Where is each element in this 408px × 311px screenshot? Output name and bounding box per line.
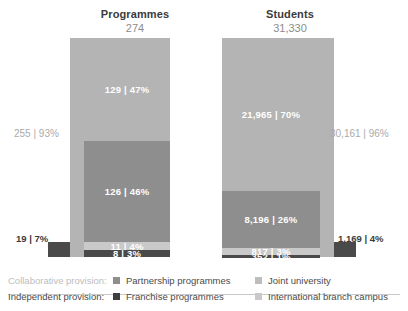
independent-total-bar-students [334, 242, 356, 257]
legend-label-partnership: Partnership programmes [126, 275, 231, 286]
segment-label-franchise-students: 352 | 1% [251, 255, 290, 259]
legend-swatch-joint-university-icon [255, 277, 262, 284]
segment-partnership-students[interactable]: 8,196 | 26% [222, 191, 320, 248]
legend-swatch-franchise-icon [113, 293, 120, 300]
column-title-students-label: Students [210, 8, 370, 21]
collaborative-total-bar-students [320, 38, 334, 257]
independent-total-label-students: 1,169 | 4% [338, 233, 383, 244]
legend-item-joint-university[interactable]: Joint university [255, 275, 331, 286]
segment-franchise-programmes[interactable]: 8 | 3% [84, 250, 170, 257]
legend-swatch-international-branch-campus-icon [255, 293, 262, 300]
independent-total-label-programmes: 19 | 7% [16, 233, 48, 244]
independent-total-bar-programmes [48, 242, 70, 257]
collaborative-total-label-programmes: 255 | 93% [14, 128, 59, 139]
legend-item-partnership[interactable]: Partnership programmes [113, 275, 255, 286]
legend-row-independent: Independent provision: Franchise program… [8, 288, 400, 304]
legend-label-joint-university: Joint university [268, 275, 331, 286]
column-total-students: 31,330 [210, 21, 370, 35]
column-title-programmes: Programmes 274 [55, 8, 215, 35]
legend-group-label-independent: Independent provision: [8, 291, 113, 302]
segment-label-joint-university-programmes: 129 | 47% [105, 84, 150, 95]
segment-label-international-branch-campus-programmes: 11 | 4% [110, 242, 143, 251]
segment-label-partnership-students: 8,196 | 26% [245, 214, 298, 225]
bar-stack-students: 21,965 | 70% 8,196 | 26% 817 | 3% 352 | … [222, 38, 320, 257]
legend-group-label-collaborative: Collaborative provision: [8, 275, 113, 286]
column-title-programmes-label: Programmes [55, 8, 215, 21]
segment-label-joint-university-students: 21,965 | 70% [242, 109, 300, 120]
segment-franchise-students[interactable]: 352 | 1% [222, 255, 320, 259]
segment-partnership-programmes[interactable]: 126 | 46% [84, 141, 170, 242]
segment-international-branch-campus-programmes[interactable]: 11 | 4% [84, 242, 170, 251]
column-total-programmes: 274 [55, 21, 215, 35]
column-title-students: Students 31,330 [210, 8, 370, 35]
collaborative-total-bar-programmes [70, 38, 84, 257]
collaborative-total-label-students: 30,161 | 96% [330, 128, 389, 139]
stacked-bar-chart: Programmes 274 Students 31,330 129 | 47%… [0, 0, 408, 311]
segment-joint-university-programmes[interactable]: 129 | 47% [84, 38, 170, 141]
bar-stack-programmes: 129 | 47% 126 | 46% 11 | 4% 8 | 3% [84, 38, 170, 257]
segment-label-partnership-programmes: 126 | 46% [105, 186, 150, 197]
legend-swatch-partnership-icon [113, 277, 120, 284]
segment-label-franchise-programmes: 8 | 3% [113, 250, 141, 257]
chart-legend: Collaborative provision: Partnership pro… [8, 272, 400, 304]
legend-item-franchise[interactable]: Franchise programmes [113, 291, 255, 302]
bar-group-programmes: 129 | 47% 126 | 46% 11 | 4% 8 | 3% [70, 38, 170, 257]
segment-joint-university-students[interactable]: 21,965 | 70% [222, 38, 320, 191]
legend-item-international-branch-campus[interactable]: International branch campus [255, 291, 388, 302]
bar-group-students: 21,965 | 70% 8,196 | 26% 817 | 3% 352 | … [222, 38, 334, 257]
legend-label-international-branch-campus: International branch campus [268, 291, 388, 302]
plot-area: 129 | 47% 126 | 46% 11 | 4% 8 | 3% 21,96… [0, 38, 408, 257]
legend-row-collaborative: Collaborative provision: Partnership pro… [8, 272, 400, 288]
legend-label-franchise: Franchise programmes [126, 291, 224, 302]
